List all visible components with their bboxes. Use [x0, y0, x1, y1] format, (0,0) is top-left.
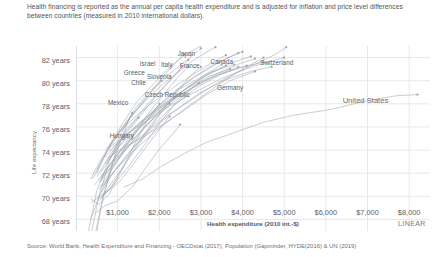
country-label[interactable]: Germany	[217, 84, 243, 91]
y-tick-label: 78 years	[18, 101, 70, 110]
country-label[interactable]: France	[180, 62, 200, 69]
country-label[interactable]: Canada	[211, 57, 233, 64]
source-note: Source: World Bank, Health Expenditure a…	[27, 243, 356, 249]
x-tick-label: $3,000	[190, 208, 213, 217]
x-tick-label: $7,000	[356, 208, 379, 217]
country-label[interactable]: Japan	[178, 49, 195, 56]
country-label[interactable]: Italy	[161, 61, 173, 68]
country-label[interactable]: Czech Republic	[145, 91, 190, 98]
chart-page: Health financing is reported as the annu…	[0, 0, 446, 257]
country-label[interactable]: Hungary	[110, 131, 134, 138]
x-tick-label: $1,000	[106, 208, 129, 217]
chart-description: Health financing is reported as the annu…	[27, 2, 427, 21]
x-tick-label: $6,000	[315, 208, 338, 217]
country-label[interactable]: United States	[343, 96, 389, 105]
scale-toggle-linear[interactable]: LINEAR	[398, 220, 426, 227]
country-label[interactable]: Israel	[140, 60, 156, 67]
y-tick-label: 82 years	[18, 55, 70, 64]
y-tick-label: 70 years	[18, 194, 70, 203]
country-label[interactable]: Slovenia	[147, 72, 172, 79]
chart-container: 68 years70 years72 years74 years76 years…	[0, 24, 446, 224]
x-tick-label: $4,000	[231, 208, 254, 217]
y-tick-label: 68 years	[18, 217, 70, 226]
country-label[interactable]: Greece	[124, 69, 145, 76]
y-axis-title: Life expectancy	[30, 131, 37, 174]
x-axis-title: Health expenditure (2010 int.-$)	[207, 220, 299, 227]
country-label[interactable]: Mexico	[108, 99, 128, 106]
y-tick-label: 76 years	[18, 124, 70, 133]
x-tick-label: $8,000	[398, 208, 421, 217]
x-tick-label: $5,000	[273, 208, 296, 217]
y-tick-label: 72 years	[18, 171, 70, 180]
y-tick-label: 74 years	[18, 148, 70, 157]
y-tick-label: 80 years	[18, 78, 70, 87]
country-label[interactable]: Switzerland	[260, 58, 293, 65]
x-tick-label: $2,000	[148, 208, 171, 217]
country-label[interactable]: Chile	[131, 78, 146, 85]
